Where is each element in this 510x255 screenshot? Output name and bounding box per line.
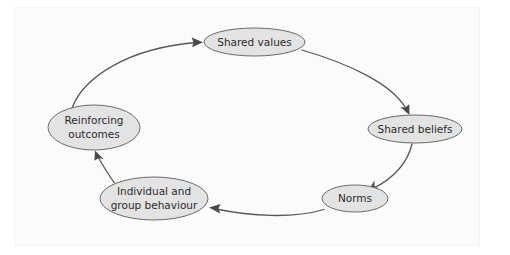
cycle-diagram: Shared values Shared beliefs Norms Indiv… [0, 0, 510, 255]
link-individual-and-group-behaviour-to-reinforcing-outcomes [94, 151, 115, 185]
node-shared-beliefs[interactable]: Shared beliefs [368, 115, 462, 143]
node-individual-and-group-behaviour[interactable]: Individual and group behaviour [100, 177, 208, 220]
node-label-reinforcing-outcomes-line1: Reinforcing [64, 114, 123, 126]
link-path-shared-values-to-shared-beliefs [302, 50, 406, 109]
link-norms-to-individual-and-group-behaviour [209, 204, 324, 216]
node-label-norms: Norms [338, 192, 372, 204]
node-label-individual-and-group-behaviour-line1: Individual and [117, 185, 191, 197]
arrowhead-into-individual-and-group-behaviour [209, 204, 221, 214]
link-shared-values-to-shared-beliefs [302, 50, 410, 115]
node-label-shared-values: Shared values [217, 36, 291, 48]
node-reinforcing-outcomes[interactable]: Reinforcing outcomes [48, 105, 140, 150]
diagram-page: Shared values Shared beliefs Norms Indiv… [0, 0, 510, 255]
link-path-individual-and-group-behaviour-to-reinforcing-outcomes [98, 157, 115, 184]
node-label-shared-beliefs: Shared beliefs [378, 123, 453, 135]
link-reinforcing-outcomes-to-shared-values [72, 38, 203, 108]
link-path-norms-to-individual-and-group-behaviour [216, 209, 324, 216]
node-label-reinforcing-outcomes-line2: outcomes [68, 128, 120, 140]
node-label-individual-and-group-behaviour-line2: group behaviour [111, 199, 198, 211]
node-norms[interactable]: Norms [322, 185, 388, 212]
link-path-reinforcing-outcomes-to-shared-values [72, 43, 196, 109]
link-path-shared-beliefs-to-norms [374, 144, 412, 188]
link-shared-beliefs-to-norms [368, 144, 412, 191]
node-shared-values[interactable]: Shared values [204, 28, 305, 56]
